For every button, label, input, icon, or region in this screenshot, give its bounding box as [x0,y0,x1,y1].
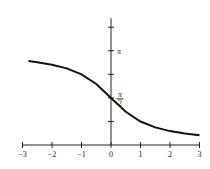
x-tick-label: −3 [18,150,27,159]
x-tick-label: 1 [139,150,143,159]
fraction-numerator: π [118,90,123,99]
x-tick-label: −1 [77,150,86,159]
y-tick-label-pi: π [117,47,122,56]
x-tick-label: 2 [168,150,172,159]
x-tick-label: 3 [198,150,202,159]
axes [23,18,200,145]
arccot-chart: −3−2−10123π2π [0,0,210,169]
x-tick-label: −2 [48,150,57,159]
x-tick-label: 0 [109,150,113,159]
